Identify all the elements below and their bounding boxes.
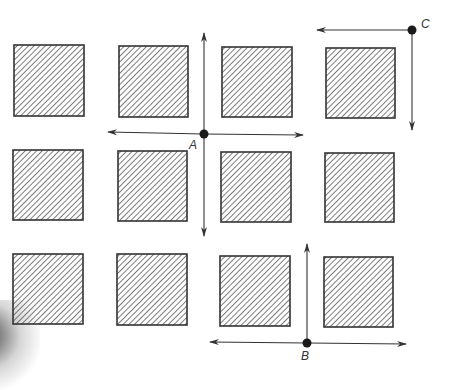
arrow-B-right (307, 343, 406, 344)
arrow-A-right (204, 134, 303, 135)
hatched-block-r3-c2 (117, 254, 187, 325)
hatched-block-r2-c1 (13, 150, 83, 220)
hatched-block-r2-c2 (118, 151, 187, 221)
hatched-block-r2-c4 (325, 153, 394, 222)
point-C (408, 26, 417, 35)
point-label-C: C (421, 17, 430, 31)
arrow-A-left (108, 132, 204, 134)
hatched-block-r1-c3 (222, 47, 292, 117)
point-label-B: B (301, 349, 309, 363)
arrow-B-left (210, 342, 307, 343)
hatched-block-r1-c4 (326, 48, 395, 118)
point-B (303, 339, 312, 348)
hatched-block-r1-c2 (119, 46, 188, 117)
hatched-block-r2-c3 (221, 152, 291, 222)
point-label-A: A (189, 138, 197, 152)
hatched-block-r3-c4 (324, 257, 393, 327)
hatched-block-r1-c1 (14, 45, 84, 116)
point-A (200, 130, 209, 139)
hatched-block-r3-c3 (220, 256, 290, 326)
hatched-block-r3-c1 (13, 254, 83, 324)
